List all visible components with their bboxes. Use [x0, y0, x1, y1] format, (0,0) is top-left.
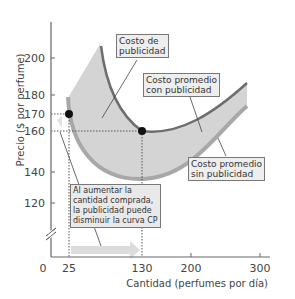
- note-line: cantidad comprada,: [73, 196, 158, 206]
- annotation-note: Al aumentar la cantidad comprada, la pub…: [70, 184, 161, 228]
- label-avg-cost-without-ads: Costo promedio sin publicidad: [188, 157, 265, 181]
- quantity-increase-arrow: [71, 241, 140, 259]
- y-axis-title: Precio ($ por perfume): [15, 53, 26, 166]
- label-advertising-cost: Costo de publicidad: [116, 34, 169, 58]
- label-line: Costo promedio: [191, 159, 262, 169]
- label-avg-cost-with-ads: Costo promedio con publicidad: [143, 73, 220, 97]
- note-line: Al aumentar la: [73, 186, 158, 196]
- label-line: con publicidad: [146, 85, 217, 95]
- x-axis-title: Cantidad (perfumes por día): [126, 278, 268, 289]
- x-tick-130: 130: [132, 262, 153, 275]
- y-tick-180: 180: [24, 89, 45, 102]
- y-tick-120: 120: [24, 197, 45, 210]
- point-25-170: [65, 110, 73, 118]
- label-line: Costo promedio: [146, 75, 217, 85]
- x-tick-200: 200: [181, 262, 202, 275]
- x-tick-300: 300: [250, 262, 271, 275]
- note-line: la publicidad puede: [73, 206, 158, 216]
- label-line: Costo de: [119, 36, 166, 46]
- y-tick-140: 140: [24, 166, 45, 179]
- x-tick-25: 25: [62, 262, 76, 275]
- label-line: publicidad: [119, 46, 166, 56]
- note-line: disminuir la curva CP: [73, 216, 158, 226]
- y-tick-200: 200: [24, 52, 45, 65]
- y-tick-170: 170: [24, 108, 45, 121]
- point-130-160: [138, 127, 146, 135]
- label-line: sin publicidad: [191, 169, 262, 179]
- x-tick-0: 0: [40, 262, 47, 275]
- y-tick-160: 160: [24, 125, 45, 138]
